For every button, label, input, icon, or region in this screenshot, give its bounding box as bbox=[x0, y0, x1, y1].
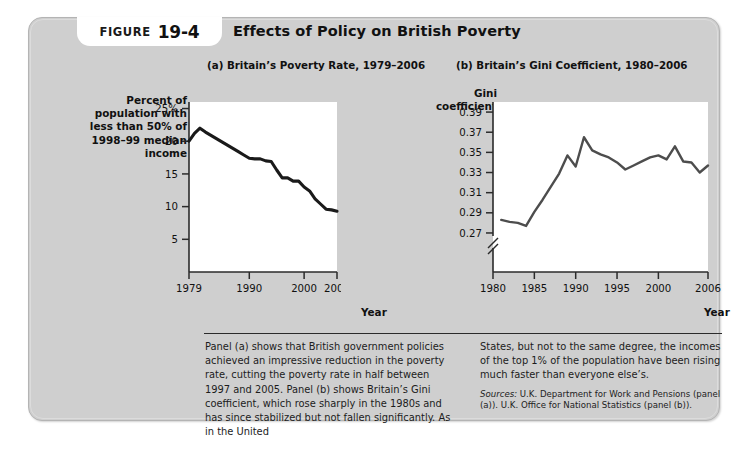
figure-title: Effects of Policy on British Poverty bbox=[233, 23, 521, 39]
panel-a-y-tick-label: 5 bbox=[172, 234, 178, 245]
caption-right-text: States, but not to the same degree, the … bbox=[480, 340, 728, 383]
panel-b-y-tick-label: 0.39 bbox=[459, 107, 482, 118]
panel-b-x-tick-label: 1990 bbox=[563, 283, 589, 294]
caption-sources: Sources: U.K. Department for Work and Pe… bbox=[480, 389, 728, 412]
panel-a-y-tick-label: 10 bbox=[165, 201, 178, 212]
panel-a-subtitle: (a) Britain’s Poverty Rate, 1979–2006 bbox=[207, 59, 425, 71]
caption-right-column: States, but not to the same degree, the … bbox=[480, 340, 728, 411]
panel-a-x-ticks: 1979199020002006 bbox=[176, 272, 341, 294]
panel-a-chart: 510152025% 1979199020002006 bbox=[69, 94, 341, 306]
panel-b-x-ticks: 198019851990199520002006 bbox=[480, 272, 721, 294]
panel-b-subtitle: (b) Britain’s Gini Coefficient, 1980–200… bbox=[456, 59, 688, 71]
panel-a-y-ticks: 510152025% bbox=[155, 103, 189, 245]
sources-label: Sources: bbox=[480, 389, 517, 399]
panel-a-x-tick-label: 2000 bbox=[291, 283, 317, 294]
panel-b-y-tick-label: 0.31 bbox=[459, 187, 482, 198]
panel-b-x-tick-label: 1980 bbox=[480, 283, 506, 294]
caption-divider bbox=[204, 333, 722, 334]
caption-left-text: Panel (a) shows that British government … bbox=[205, 340, 453, 439]
panel-b-x-tick-label: 2000 bbox=[645, 283, 671, 294]
figure-label: FIGURE bbox=[100, 25, 151, 39]
figure-card: FIGURE 19-4 Effects of Policy on British… bbox=[28, 17, 720, 421]
caption-left-column: Panel (a) shows that British government … bbox=[205, 340, 453, 439]
panel-a-x-tick-label: 1990 bbox=[236, 283, 262, 294]
panel-b-y-tick-label: 0.29 bbox=[459, 207, 482, 218]
panel-b-chart: 0.270.290.310.330.350.370.39 19801985199… bbox=[421, 94, 721, 306]
sources-text: U.K. Department for Work and Pensions (p… bbox=[480, 389, 720, 410]
panel-b-x-tick-label: 1985 bbox=[521, 283, 547, 294]
panel-a-y-tick-label: 25% bbox=[155, 103, 178, 114]
panel-b-y-ticks: 0.270.290.310.330.350.370.39 bbox=[459, 107, 493, 239]
panel-b-y-tick-label: 0.35 bbox=[459, 147, 482, 158]
panel-a-x-tick-label: 1979 bbox=[176, 283, 202, 294]
panel-b-y-tick-label: 0.27 bbox=[459, 228, 482, 239]
panel-a-y-tick-label: 20 bbox=[165, 136, 178, 147]
figure-page: FIGURE 19-4 Effects of Policy on British… bbox=[0, 0, 754, 453]
panel-b-x-tick-label: 2006 bbox=[695, 283, 721, 294]
panel-a-x-tick-label: 2006 bbox=[324, 283, 341, 294]
panel-b-y-tick-label: 0.33 bbox=[459, 167, 482, 178]
panel-a-y-tick-label: 15 bbox=[165, 169, 178, 180]
panel-b-x-axis-title: Year bbox=[704, 306, 730, 318]
panel-a-x-axis-title: Year bbox=[361, 306, 387, 318]
panel-b-x-tick-label: 1995 bbox=[604, 283, 630, 294]
figure-number: 19-4 bbox=[158, 22, 200, 42]
panel-b-y-tick-label: 0.37 bbox=[459, 127, 482, 138]
figure-tab: FIGURE 19-4 bbox=[77, 17, 222, 46]
